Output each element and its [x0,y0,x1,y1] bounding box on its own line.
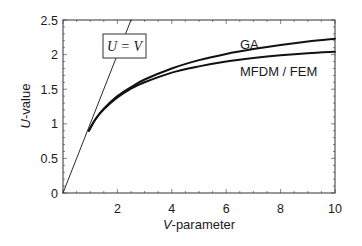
y-tick-label: 2 [51,48,58,62]
x-tick-label: 10 [328,202,342,216]
y-axis-label: U-value [18,84,33,129]
y-tick-label: 2.5 [41,14,58,28]
chart: 24681000.511.522.5 U = V GA MFDM / FEM V… [0,0,362,246]
series-label-mfdm-fem: MFDM / FEM [240,64,317,79]
annotation-u-equals-v-text: U = V [107,39,144,54]
annotation-u-equals-v: U = V [103,34,146,58]
series-label-ga: GA [240,37,259,52]
x-tick-label: 4 [168,202,175,216]
y-tick-label: 1.5 [41,83,58,97]
y-tick-label: 1 [51,117,58,131]
x-tick-label: 8 [277,202,284,216]
tick-labels: 24681000.511.522.5 [41,14,342,217]
x-axis-label: V-parameter [163,217,236,232]
y-tick-label: 0.5 [41,152,58,166]
x-tick-label: 2 [114,202,121,216]
y-tick-label: 0 [51,187,58,201]
x-tick-label: 6 [223,202,230,216]
